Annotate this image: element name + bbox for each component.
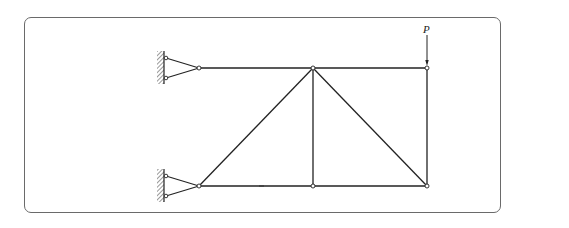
truss-members xyxy=(199,68,427,186)
support-bottom-left xyxy=(157,169,199,202)
support-top-left xyxy=(157,51,199,84)
wall-hatch xyxy=(157,169,164,202)
member-diagonal-left xyxy=(199,68,313,186)
load-label: P xyxy=(422,23,430,35)
joint-bottom-right xyxy=(425,184,429,188)
member-diagonal-right xyxy=(313,68,427,186)
pin-icon xyxy=(164,194,168,198)
wall-hatch xyxy=(157,51,164,84)
pin-icon xyxy=(164,76,168,80)
load-arrow: P xyxy=(422,23,430,66)
pin-icon xyxy=(164,174,168,178)
joint-bottom-middle xyxy=(311,184,315,188)
truss-diagram: P xyxy=(0,0,569,228)
joint-top-right xyxy=(425,66,429,70)
arrow-down-icon xyxy=(425,60,428,66)
joint-top-middle xyxy=(311,66,315,70)
mark xyxy=(259,185,264,187)
joint-bottom-left xyxy=(197,184,201,188)
joint-top-left xyxy=(197,66,201,70)
pin-icon xyxy=(164,56,168,60)
